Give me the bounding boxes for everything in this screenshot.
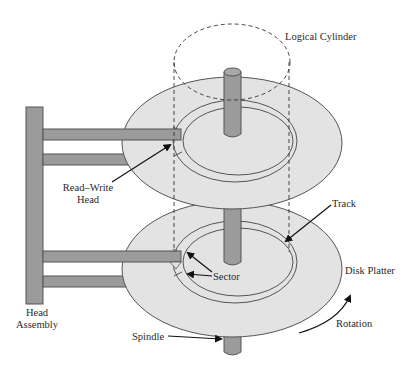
arm-bottom-lower <box>43 276 133 287</box>
spindle-top <box>224 72 241 137</box>
spindle-mid-lower <box>224 208 241 265</box>
label-disk-platter: Disk Platter <box>345 265 395 276</box>
label-read-write-head-1: Read–Write <box>63 182 114 193</box>
label-head-assembly-2: Assembly <box>16 319 59 330</box>
label-logical-cylinder: Logical Cylinder <box>285 31 357 42</box>
label-track: Track <box>332 198 357 209</box>
label-head-assembly-1: Head <box>26 307 49 318</box>
arm-top-upper <box>43 129 181 140</box>
disk-structure-diagram: Logical Cylinder Read–Write Head Track S… <box>0 0 417 368</box>
head-assembly-bar <box>26 107 43 304</box>
label-read-write-head-2: Head <box>77 194 100 205</box>
arm-bottom-upper <box>43 251 181 262</box>
label-spindle: Spindle <box>132 331 164 342</box>
label-rotation: Rotation <box>336 318 373 329</box>
label-sector: Sector <box>213 271 240 282</box>
arm-top-lower <box>43 154 133 165</box>
bottom-platter <box>43 201 342 355</box>
spindle-top-cap <box>224 68 241 76</box>
